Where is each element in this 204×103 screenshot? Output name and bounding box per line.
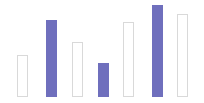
bar-chart (0, 0, 204, 103)
chart-plot-area (0, 0, 204, 103)
bar-7 (177, 14, 188, 97)
bar-4 (98, 63, 109, 97)
bar-5 (123, 22, 134, 97)
bar-1 (17, 55, 28, 97)
bar-3 (72, 42, 83, 97)
bar-2 (46, 20, 57, 97)
bar-6 (152, 5, 163, 97)
